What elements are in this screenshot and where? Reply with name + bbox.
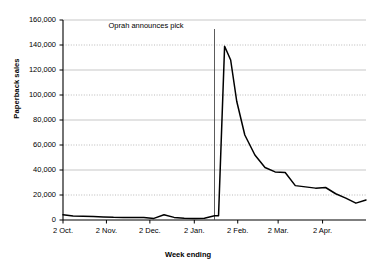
x-tick-label: 2 Apr.: [313, 226, 332, 235]
x-tick-label: 2 Dec.: [139, 226, 161, 235]
annotation-label: Oprah announces pick: [109, 21, 184, 30]
y-tick-label: 20,000: [4, 191, 56, 199]
y-tick-label: 160,000: [4, 16, 56, 24]
y-tick-label: 140,000: [4, 41, 56, 49]
y-tick-label: 0: [4, 216, 56, 224]
x-tick-label: 2 Oct.: [53, 226, 73, 235]
y-tick-label: 80,000: [4, 116, 56, 124]
y-tick-label: 60,000: [4, 141, 56, 149]
x-tick-label: 2 Jan.: [184, 226, 204, 235]
x-tick-label: 2 Nov.: [96, 226, 117, 235]
x-tick-label: 2 Feb.: [227, 226, 248, 235]
x-tick-label: 2 Mar.: [268, 226, 289, 235]
y-tick-label: 100,000: [4, 91, 56, 99]
y-tick-label: 120,000: [4, 66, 56, 74]
chart-container: Paperback sales 020,00040,00060,00080,00…: [0, 0, 376, 270]
x-axis-title: Week ending: [0, 250, 376, 259]
y-tick-label: 40,000: [4, 166, 56, 174]
